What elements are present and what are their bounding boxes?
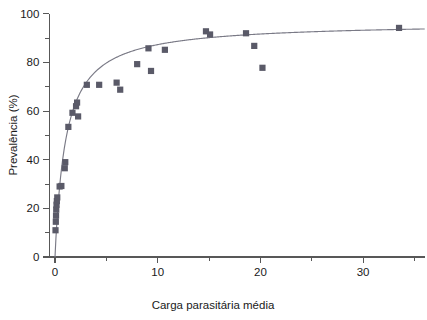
data-point-marker — [134, 61, 140, 67]
data-point-marker — [243, 30, 249, 36]
data-point-marker — [52, 227, 58, 233]
data-point-marker — [145, 45, 151, 51]
data-point-marker — [117, 87, 123, 93]
data-point-marker — [74, 99, 80, 105]
y-axis-title: Prevalência (%) — [7, 94, 19, 175]
data-point-marker — [162, 47, 168, 53]
fit-curve-group — [55, 29, 425, 257]
data-point-marker — [53, 213, 59, 219]
y-tick-label: 40 — [27, 154, 40, 166]
data-point-marker — [62, 159, 68, 165]
y-tick-label: 80 — [27, 56, 40, 68]
x-tick-label: 10 — [151, 266, 164, 278]
fit-curve — [55, 29, 425, 257]
axes-group — [49, 14, 424, 257]
data-point-marker — [207, 31, 213, 37]
x-tick-label: 30 — [357, 266, 370, 278]
data-point-marker — [54, 194, 60, 200]
data-point-marker — [75, 113, 81, 119]
y-tick-label: 60 — [27, 105, 40, 117]
data-point-marker — [148, 68, 154, 74]
x-tick-label: 0 — [52, 266, 58, 278]
data-points-group — [52, 25, 402, 234]
data-point-marker — [114, 80, 120, 86]
tick-labels-group: 0102030020406080100 — [20, 8, 369, 278]
data-point-marker — [396, 25, 402, 31]
data-point-marker — [62, 165, 68, 171]
ticks-group — [43, 14, 414, 263]
data-point-marker — [69, 110, 75, 116]
scatter-plot: 0102030020406080100 Carga parasitária mé… — [0, 0, 427, 320]
data-point-marker — [96, 82, 102, 88]
data-point-marker — [251, 43, 257, 49]
chart-container: 0102030020406080100 Carga parasitária mé… — [0, 0, 427, 320]
y-tick-label: 0 — [33, 251, 39, 263]
data-point-marker — [84, 82, 90, 88]
x-tick-label: 20 — [254, 266, 267, 278]
x-axis-title: Carga parasitária média — [152, 299, 275, 311]
data-point-marker — [65, 124, 71, 130]
data-point-marker — [53, 219, 59, 225]
data-point-marker — [58, 183, 64, 189]
data-point-marker — [259, 65, 265, 71]
y-tick-label: 20 — [27, 202, 40, 214]
y-tick-label: 100 — [20, 8, 39, 20]
